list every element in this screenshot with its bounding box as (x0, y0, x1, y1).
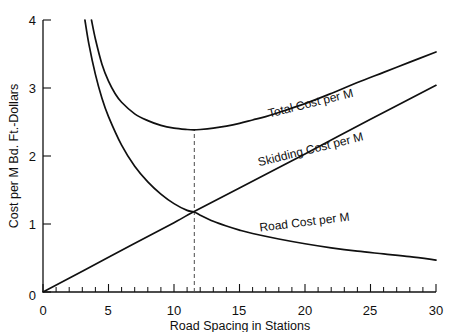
series-label-skidding-cost: Skidding Cost per M (256, 130, 364, 170)
series-labels: Total Cost per M Skidding Cost per M Roa… (256, 86, 364, 235)
axes-group (43, 20, 436, 292)
series-line-skidding-cost (43, 85, 436, 292)
y-ticklabel-4: 4 (29, 13, 36, 28)
y-ticklabel-3: 3 (29, 81, 36, 96)
y-axis-tick-labels: 4 3 2 1 0 (29, 13, 36, 303)
x-ticklabel-0: 0 (39, 303, 46, 318)
x-axis-title: Road Spacing in Stations (170, 319, 310, 332)
x-ticklabel-15: 15 (232, 303, 246, 318)
series-label-road-cost: Road Cost per M (259, 210, 351, 235)
y-ticklabel-1: 1 (29, 217, 36, 232)
x-ticklabel-5: 5 (104, 303, 111, 318)
y-ticklabel-2: 2 (29, 149, 36, 164)
y-axis-ticks (43, 20, 51, 292)
series-line-total-cost (91, 20, 436, 130)
x-ticklabel-10: 10 (167, 303, 181, 318)
y-axis-title: Cost per M Bd. Ft.-Dollars (7, 84, 21, 228)
x-ticklabel-30: 30 (429, 303, 443, 318)
x-ticklabel-25: 25 (363, 303, 377, 318)
x-ticklabel-20: 20 (298, 303, 312, 318)
x-axis-major-ticks (43, 284, 436, 292)
series-label-total-cost: Total Cost per M (266, 86, 354, 121)
cost-vs-road-spacing-chart: 4 3 2 1 0 0 5 10 15 20 25 30 Road Spacin… (0, 0, 457, 332)
y-ticklabel-0: 0 (29, 288, 36, 303)
chart-figure: 4 3 2 1 0 0 5 10 15 20 25 30 Road Spacin… (0, 0, 457, 332)
x-axis-tick-labels: 0 5 10 15 20 25 30 (39, 303, 443, 318)
